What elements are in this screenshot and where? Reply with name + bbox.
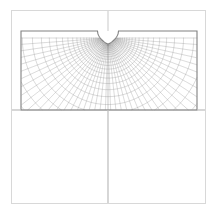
figure-root: Polar finite-element mesh around a U-sha… xyxy=(0,0,218,217)
mesh-figure-canvas xyxy=(0,0,218,217)
